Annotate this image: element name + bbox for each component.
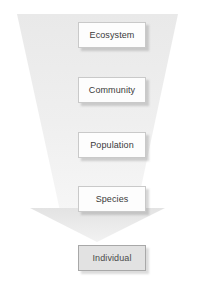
level-box-community[interactable]: Community [78, 77, 146, 103]
level-box-individual[interactable]: Individual [78, 245, 146, 271]
level-label-species: Species [96, 195, 129, 204]
level-box-species[interactable]: Species [78, 186, 146, 212]
level-label-ecosystem: Ecosystem [90, 31, 135, 40]
level-box-population[interactable]: Population [78, 132, 146, 158]
level-label-community: Community [89, 86, 135, 95]
organization-funnel-diagram: Ecosystem Community Population Species I… [0, 0, 207, 286]
arrowhead-shape [30, 208, 165, 242]
level-box-ecosystem[interactable]: Ecosystem [78, 22, 146, 48]
level-label-individual: Individual [92, 254, 131, 263]
level-label-population: Population [90, 141, 134, 150]
